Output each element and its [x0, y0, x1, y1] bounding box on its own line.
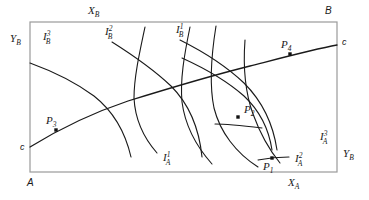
- indifference-curve-b-1: [180, 40, 277, 150]
- curve-label-a-1: I1A: [162, 150, 171, 167]
- curve-label-b-2: I2B: [104, 24, 113, 41]
- indifference-curve-a-extra: [244, 40, 280, 163]
- indifference-curve-a-3: [211, 26, 258, 167]
- allocation-points-group: [54, 52, 291, 159]
- indifference-curve-a-1: [134, 27, 157, 153]
- curve-label-b-3-sub: B: [46, 37, 51, 46]
- axis-label-top-sub: B: [95, 10, 100, 19]
- indifference-curves-b-group: [30, 40, 277, 157]
- curve-label-b-1-sub: B: [179, 30, 184, 39]
- axis-label-bottom-sub: A: [294, 182, 300, 191]
- axis-label-bottom: XA: [287, 176, 300, 191]
- point-dot-p4: [288, 52, 291, 55]
- axis-label-left-sub: B: [16, 38, 21, 47]
- point-label-p4-sub: 4: [288, 44, 292, 53]
- origin-label-a: A: [26, 177, 34, 188]
- tangent-segments-group: [215, 124, 289, 160]
- point-label-p3-sub: 3: [52, 120, 57, 129]
- point-label-p4: P4: [280, 38, 292, 53]
- axis-label-right: YB: [343, 147, 354, 162]
- curve-label-a-2: I2A: [294, 151, 303, 168]
- point-label-p1-sub: 1: [270, 166, 274, 175]
- axis-label-top: XB: [87, 4, 100, 19]
- point-label-p2-sub: 2: [251, 109, 255, 118]
- curve-label-b-1: I1B: [175, 22, 184, 39]
- point-dot-p2: [236, 115, 239, 118]
- curve-label-b-2-sub: B: [108, 32, 113, 41]
- axis-label-right-sub: B: [349, 153, 354, 162]
- curve-label-b-3: I3B: [42, 29, 51, 46]
- contract-curve-start-label: c: [20, 142, 25, 152]
- point-dot-p1: [270, 156, 273, 159]
- edgeworth-box-figure: P1 P2 P3 P4 I1A I2A I3A I3B I2B I1B: [0, 0, 369, 200]
- curve-label-a-2-sub: A: [297, 159, 303, 168]
- indifference-curve-a-2: [181, 27, 212, 164]
- curve-label-a-3-sub: A: [322, 137, 328, 146]
- curve-labels-a-group: I1A I2A I3A: [162, 129, 328, 168]
- axis-label-left: YB: [10, 32, 21, 47]
- origin-label-b: B: [325, 5, 332, 16]
- contract-curve-end-label: c: [342, 37, 347, 47]
- indifference-curve-b-3: [30, 63, 131, 157]
- tangent-segment-p2: [215, 124, 262, 128]
- indifference-curves-a-group: [134, 26, 280, 167]
- point-dot-p3: [54, 128, 57, 131]
- curve-label-a-1-sub: A: [165, 158, 171, 167]
- curve-label-a-3: I3A: [319, 129, 328, 146]
- point-label-p3: P3: [45, 114, 57, 129]
